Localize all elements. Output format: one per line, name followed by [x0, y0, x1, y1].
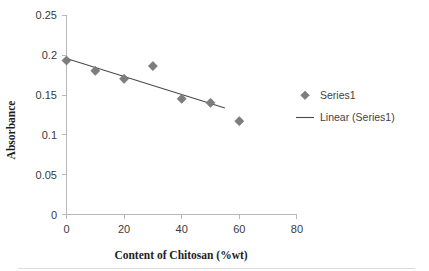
y-tick-label-0.05: 0.05: [36, 169, 57, 181]
data-point: [148, 61, 157, 70]
chart-figure: 0.25 0.2 0.15 0.1 0.05 0 0 20 40 60 80 A…: [0, 0, 429, 271]
legend-label-series1: Series1: [320, 89, 356, 101]
chart-canvas: 0.25 0.2 0.15 0.1 0.05 0 0 20 40 60 80 A…: [0, 0, 429, 271]
data-point: [91, 66, 100, 75]
y-axis: [62, 15, 67, 215]
x-tick-label-40: 40: [176, 223, 188, 235]
y-tick-label-0.1: 0.1: [42, 129, 57, 141]
y-tick-label-0: 0: [51, 209, 57, 221]
trendline: [67, 58, 225, 107]
x-tick-label-0: 0: [63, 223, 69, 235]
x-tick-label-60: 60: [233, 223, 245, 235]
y-tick-label-0.25: 0.25: [36, 9, 57, 21]
x-tick-label-20: 20: [118, 223, 130, 235]
data-point: [206, 98, 215, 107]
data-point: [62, 56, 71, 65]
chart-legend: Series1 Linear (Series1): [296, 89, 395, 123]
y-axis-title: Absorbance: [5, 101, 17, 160]
y-tick-label-0.15: 0.15: [36, 89, 57, 101]
legend-diamond-icon: [301, 91, 310, 100]
data-points-group: [62, 56, 244, 126]
trendline-group: [67, 58, 225, 107]
x-axis: [67, 215, 298, 220]
legend-label-linear: Linear (Series1): [320, 111, 395, 123]
x-tick-label-80: 80: [291, 223, 303, 235]
y-tick-label-0.2: 0.2: [42, 49, 57, 61]
x-axis-title: Content of Chitosan (%wt): [114, 249, 247, 262]
data-point: [235, 117, 244, 126]
